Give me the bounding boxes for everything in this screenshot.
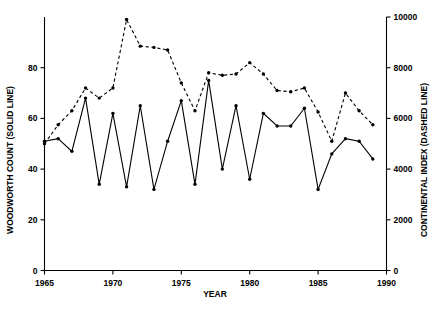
data-point <box>84 96 87 99</box>
left-axis: 020406080 WOODWORTH COUNT (SOLID LINE) <box>5 17 45 276</box>
data-point <box>316 188 319 191</box>
x-tick-label: 1980 <box>240 278 259 288</box>
data-point <box>207 71 210 74</box>
data-point <box>221 167 224 170</box>
data-point <box>43 142 46 145</box>
data-point <box>316 110 319 113</box>
data-point <box>98 96 101 99</box>
data-point <box>193 109 196 112</box>
right-tick-label: 6000 <box>394 113 413 123</box>
dual-axis-line-chart: 020406080 WOODWORTH COUNT (SOLID LINE) 0… <box>0 0 437 310</box>
data-point <box>371 157 374 160</box>
left-axis-tick-labels: 020406080 <box>28 63 38 276</box>
data-point <box>371 123 374 126</box>
right-tick-label: 2000 <box>394 215 413 225</box>
data-point <box>56 137 59 140</box>
data-point <box>275 124 278 127</box>
data-point <box>330 152 333 155</box>
right-axis-ticks <box>387 17 391 271</box>
x-tick-label: 1985 <box>309 278 328 288</box>
right-axis-title: CONTINENTAL INDEX (DASHED LINE) <box>419 83 429 237</box>
x-axis: 196519701975198019851990 YEAR <box>35 271 396 300</box>
data-point <box>166 48 169 51</box>
data-point <box>180 81 183 84</box>
series-layer <box>43 18 375 191</box>
data-point <box>248 178 251 181</box>
data-point <box>221 74 224 77</box>
data-point <box>98 183 101 186</box>
data-point <box>234 104 237 107</box>
right-tick-label: 10000 <box>394 12 418 22</box>
data-point <box>344 91 347 94</box>
data-point <box>330 140 333 143</box>
data-point <box>193 183 196 186</box>
data-point <box>357 109 360 112</box>
chart-container: 020406080 WOODWORTH COUNT (SOLID LINE) 0… <box>0 0 437 310</box>
data-point <box>152 188 155 191</box>
data-point <box>125 18 128 21</box>
data-point <box>166 140 169 143</box>
left-axis-ticks <box>41 68 45 271</box>
data-point <box>262 112 265 115</box>
data-point <box>344 137 347 140</box>
x-tick-label: 1965 <box>35 278 54 288</box>
x-axis-tick-labels: 196519701975198019851990 <box>35 278 396 288</box>
data-point <box>303 107 306 110</box>
data-point <box>139 104 142 107</box>
data-point <box>152 46 155 49</box>
right-tick-label: 4000 <box>394 164 413 174</box>
data-point <box>207 79 210 82</box>
data-point <box>70 109 73 112</box>
x-tick-label: 1970 <box>103 278 122 288</box>
right-axis: 0200040006000800010000 CONTINENTAL INDEX… <box>387 12 430 276</box>
data-point <box>180 99 183 102</box>
x-axis-title: YEAR <box>203 289 227 299</box>
data-point <box>248 61 251 64</box>
right-axis-tick-labels: 0200040006000800010000 <box>394 12 418 276</box>
data-point <box>234 72 237 75</box>
x-axis-ticks <box>45 271 387 275</box>
data-point <box>303 86 306 89</box>
x-tick-label: 1990 <box>377 278 396 288</box>
data-point <box>289 124 292 127</box>
left-tick-label: 0 <box>33 266 38 276</box>
left-tick-label: 20 <box>28 215 38 225</box>
data-point <box>56 123 59 126</box>
data-point <box>262 72 265 75</box>
x-tick-label: 1975 <box>172 278 191 288</box>
data-point <box>111 112 114 115</box>
left-tick-label: 60 <box>28 113 38 123</box>
data-point <box>289 90 292 93</box>
data-point <box>125 185 128 188</box>
left-axis-title: WOODWORTH COUNT (SOLID LINE) <box>5 86 15 234</box>
series-line <box>45 80 373 189</box>
right-tick-label: 8000 <box>394 63 413 73</box>
data-point <box>275 89 278 92</box>
data-point <box>70 150 73 153</box>
right-tick-label: 0 <box>394 266 399 276</box>
left-tick-label: 40 <box>28 164 38 174</box>
data-point <box>111 86 114 89</box>
data-point <box>84 86 87 89</box>
data-point <box>139 44 142 47</box>
data-point <box>357 140 360 143</box>
left-tick-label: 80 <box>28 63 38 73</box>
series-solid <box>43 79 375 191</box>
